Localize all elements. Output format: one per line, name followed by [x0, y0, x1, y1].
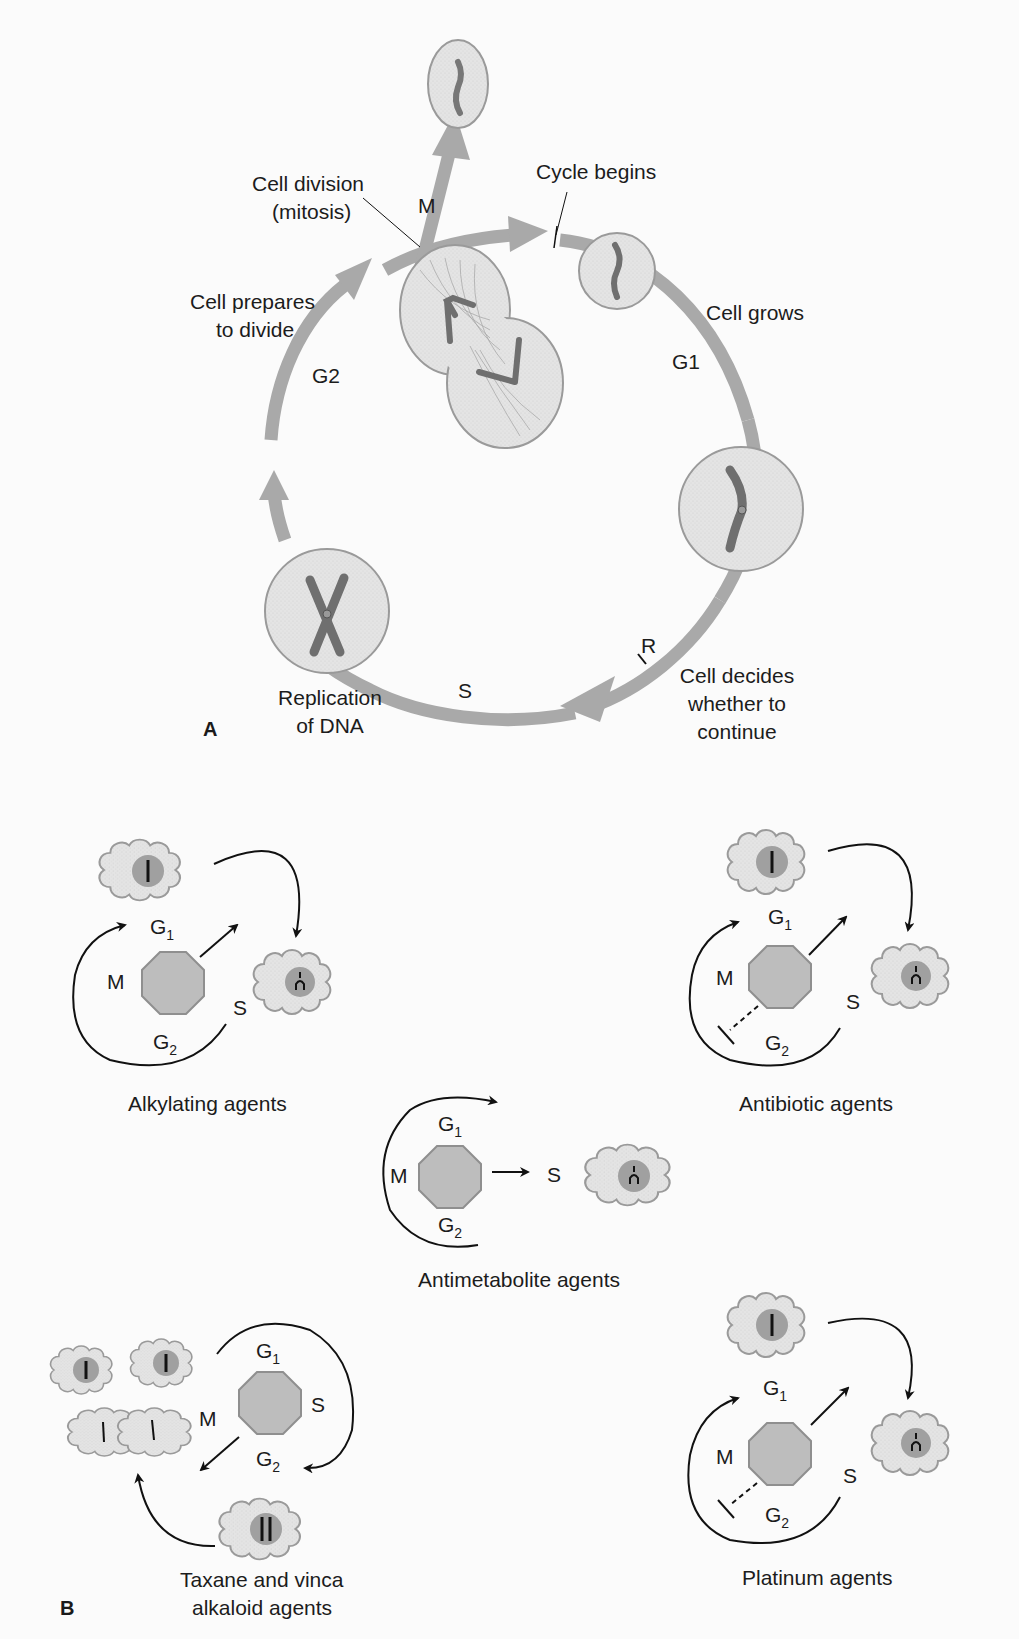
daughter-cell-top	[428, 40, 488, 128]
antimetabolite-s: S	[547, 1163, 561, 1187]
dividing-cell	[400, 245, 563, 448]
label-of-dna: of DNA	[270, 712, 390, 740]
caption-taxane-2: alkaloid agents	[192, 1594, 332, 1622]
platinum-s: S	[843, 1464, 857, 1488]
label-phase-g1: G1	[672, 348, 700, 376]
label-to-divide: to divide	[216, 316, 294, 344]
platinum-m: M	[716, 1445, 734, 1469]
figure-graphics	[0, 0, 1019, 1639]
taxane-g2: G2	[256, 1447, 280, 1479]
label-cell-decides: Cell decides	[672, 662, 802, 690]
label-whether-to: whether to	[672, 690, 802, 718]
antimetabolite-m: M	[390, 1164, 408, 1188]
alkylating-g2: G2	[153, 1030, 177, 1062]
label-restriction-point: R	[641, 632, 656, 660]
label-cell-prepares: Cell prepares	[190, 288, 315, 316]
caption-antibiotic: Antibiotic agents	[739, 1090, 893, 1118]
label-phase-g2: G2	[312, 362, 340, 390]
label-cell-grows: Cell grows	[706, 299, 804, 327]
caption-alkylating: Alkylating agents	[128, 1090, 287, 1118]
alkylating-diagram	[73, 840, 330, 1066]
taxane-s: S	[311, 1393, 325, 1417]
g1-small-cell	[579, 233, 655, 309]
antibiotic-m: M	[716, 966, 734, 990]
cell-cycle-figure: Cycle begins Cell division (mitosis) M C…	[0, 0, 1019, 1639]
label-continue: continue	[672, 718, 802, 746]
platinum-g2: G2	[765, 1503, 789, 1535]
s-phase-cell	[265, 549, 389, 673]
label-phase-m: M	[418, 192, 436, 220]
platinum-g1: G1	[763, 1376, 787, 1408]
taxane-m: M	[199, 1407, 217, 1431]
caption-platinum: Platinum agents	[742, 1564, 893, 1592]
platinum-diagram	[688, 1293, 948, 1543]
label-mitosis: (mitosis)	[272, 198, 351, 226]
label-cell-division: Cell division	[252, 170, 364, 198]
antibiotic-g1: G1	[768, 905, 792, 937]
taxane-vinca-diagram	[51, 1324, 354, 1560]
antibiotic-g2: G2	[765, 1031, 789, 1063]
antibiotic-s: S	[846, 990, 860, 1014]
antimetabolite-g1: G1	[438, 1112, 462, 1144]
caption-taxane-1: Taxane and vinca	[180, 1566, 343, 1594]
label-phase-s: S	[458, 677, 472, 705]
alkylating-s: S	[233, 996, 247, 1020]
antimetabolite-diagram	[383, 1098, 669, 1247]
antibiotic-diagram	[690, 830, 949, 1066]
label-replication: Replication	[270, 684, 390, 712]
taxane-g1: G1	[256, 1339, 280, 1371]
alkylating-g1: G1	[150, 915, 174, 947]
alkylating-m: M	[107, 970, 125, 994]
antimetabolite-g2: G2	[438, 1213, 462, 1245]
label-cycle-begins: Cycle begins	[536, 158, 656, 186]
panel-label-b: B	[60, 1597, 74, 1620]
g1-large-cell	[679, 447, 803, 571]
panel-label-a: A	[203, 718, 217, 741]
caption-antimetabolite: Antimetabolite agents	[418, 1266, 620, 1294]
